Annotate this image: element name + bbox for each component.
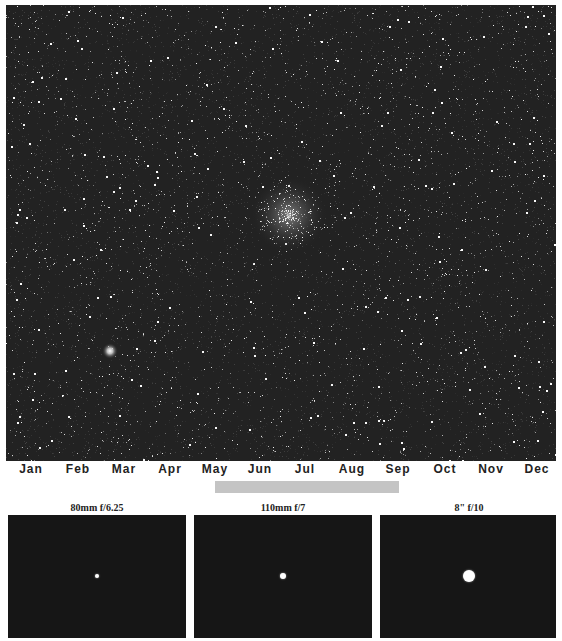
month-label-feb: Feb [53,462,103,476]
panel-title-110mm: 110mm f/7 [194,502,372,513]
eyepiece-view-80mm [8,515,186,638]
eyepiece-view-110mm [194,515,372,638]
panel-title-8inch: 8" f/10 [380,502,558,513]
month-label-jun: Jun [235,462,285,476]
month-label-oct: Oct [420,462,470,476]
month-label-apr: Apr [145,462,195,476]
month-label-nov: Nov [466,462,516,476]
star-field-image [6,5,556,461]
panel-title-80mm: 80mm f/6.25 [8,502,186,513]
star-field-canvas [6,5,556,461]
month-label-jul: Jul [280,462,330,476]
visibility-period-bar [215,481,399,493]
month-label-mar: Mar [99,462,149,476]
star-dot-icon [95,574,99,578]
month-label-sep: Sep [373,462,423,476]
eyepiece-view-8inch [380,515,556,638]
star-dot-icon [463,570,475,582]
month-label-aug: Aug [327,462,377,476]
month-label-may: May [190,462,240,476]
month-label-dec: Dec [512,462,562,476]
month-axis: Jan Feb Mar Apr May Jun Jul Aug Sep Oct … [0,462,562,480]
month-label-jan: Jan [6,462,56,476]
star-dot-icon [280,573,286,579]
